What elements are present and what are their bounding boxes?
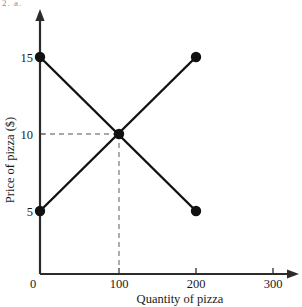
x-axis-arrow-icon	[287, 269, 299, 278]
y-axis-title: Price of pizza ($)	[3, 117, 17, 203]
data-point-equilibrium	[114, 129, 124, 139]
data-point-demand-start	[35, 52, 45, 62]
x-axis-title: Quantity of pizza	[137, 292, 224, 306]
economics-supply-demand-figure: 2. a. 15 10 5 0	[0, 0, 302, 307]
x-axis-tick-label-200: 200	[187, 277, 206, 291]
y-axis-tick-label-5: 5	[27, 205, 33, 219]
y-axis-tick-label-15: 15	[21, 51, 34, 65]
y-axis-arrow-icon	[35, 9, 44, 21]
data-point-supply-end	[191, 52, 201, 62]
x-axis-tick-label-300: 300	[264, 277, 283, 291]
supply-demand-chart: 15 10 5 0 100 200 300 Quantity of pizza …	[0, 0, 302, 307]
data-point-demand-end	[191, 206, 201, 216]
figure-header-label: 2. a.	[2, 0, 22, 8]
data-point-supply-start	[35, 206, 45, 216]
origin-label: 0	[30, 277, 36, 291]
x-axis-tick-label-100: 100	[110, 277, 129, 291]
y-axis-tick-label-10: 10	[21, 128, 34, 142]
